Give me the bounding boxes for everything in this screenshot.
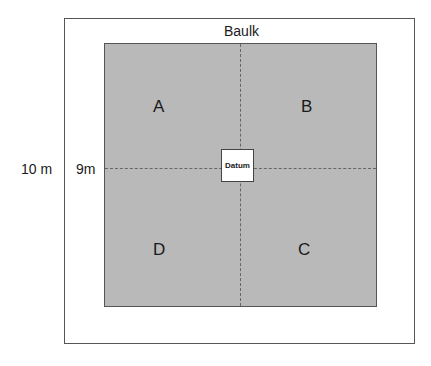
quadrant-b-label: B xyxy=(301,98,312,116)
quadrant-d-label: D xyxy=(153,241,165,259)
baulk-label: Baulk xyxy=(224,23,259,39)
datum-point: Datum xyxy=(221,149,254,182)
quadrant-a-label: A xyxy=(153,98,164,116)
inner-dimension-label: 9m xyxy=(76,161,95,177)
quadrant-c-label: C xyxy=(298,241,310,259)
datum-label: Datum xyxy=(225,161,250,170)
outer-dimension-label: 10 m xyxy=(21,161,52,177)
